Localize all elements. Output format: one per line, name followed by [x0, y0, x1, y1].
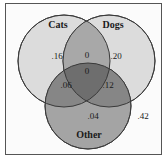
dogs-only-value: .20: [110, 51, 122, 61]
cats-other-value: .06: [60, 80, 72, 90]
dogs-other-value: .12: [102, 80, 113, 90]
cats-only-value: .16: [51, 51, 63, 61]
venn-diagram: Cats Dogs Other .16 .20 .04 0 0 .06 .12 …: [0, 0, 168, 163]
triple-value: 0: [85, 66, 90, 76]
dogs-label: Dogs: [102, 19, 123, 30]
cats-dogs-value: 0: [85, 50, 90, 60]
cats-label: Cats: [48, 19, 68, 30]
other-only-value: .04: [87, 111, 99, 121]
other-label: Other: [76, 129, 102, 140]
outside-value: .42: [137, 111, 148, 121]
